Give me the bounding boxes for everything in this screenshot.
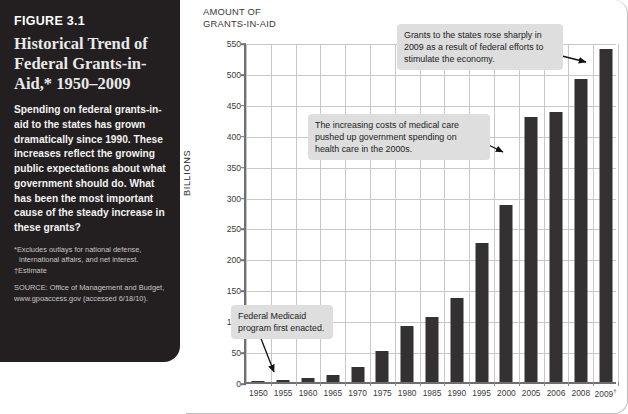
x-axis-tick-mark <box>444 382 445 386</box>
x-axis-tick-mark <box>544 382 545 386</box>
y-axis-tick-label: 450 <box>227 101 241 111</box>
y-axis-tick-label: 400 <box>227 132 241 142</box>
x-axis-tick-mark <box>618 382 619 386</box>
x-axis-tick-label: 2005 <box>522 388 541 398</box>
footnote-dagger: †Estimate <box>14 266 47 275</box>
x-axis-tick-mark <box>345 382 346 386</box>
footnote-asterisk-cont: international affairs, and net interest. <box>14 255 168 266</box>
x-axis-tick-mark <box>296 382 297 386</box>
x-axis-tick-mark <box>420 382 421 386</box>
x-axis-tick-label: 1965 <box>323 388 342 398</box>
bar <box>401 326 414 383</box>
bar <box>302 378 315 382</box>
y-axis-tick-mark <box>241 383 246 385</box>
bar <box>376 351 389 382</box>
y-axis-tick-label: 250 <box>227 224 241 234</box>
bar <box>326 375 339 382</box>
chart-axis-title: AMOUNT OF GRANTS-IN-AID <box>203 6 276 30</box>
x-axis-tick-label: 1955 <box>274 388 293 398</box>
x-axis-tick-mark <box>320 382 321 386</box>
y-axis-tick-label: 150 <box>227 286 241 296</box>
x-axis-tick-label: 1985 <box>423 388 442 398</box>
annotation-callout-medicaid: Federal Medicaid program first enacted. <box>231 305 333 339</box>
bar <box>574 79 587 382</box>
figure-title: Historical Trend of Federal Grants-in-Ai… <box>14 34 168 94</box>
bar <box>351 367 364 382</box>
x-axis-tick-mark <box>395 382 396 386</box>
x-axis-tick-label: 1995 <box>472 388 491 398</box>
x-axis-tick-mark <box>568 382 569 386</box>
bar <box>500 205 513 382</box>
bar <box>450 298 463 382</box>
bar <box>525 117 538 382</box>
figure-footnotes: *Excludes outlays for national defense, … <box>14 245 168 277</box>
caption-panel: FIGURE 3.1 Historical Trend of Federal G… <box>0 0 180 362</box>
x-axis-tick-mark <box>271 382 272 386</box>
bar <box>550 112 563 382</box>
x-axis-tick-mark <box>370 382 371 386</box>
figure-source: SOURCE: Office of Management and Budget,… <box>14 283 168 304</box>
y-axis-tick-label: 350 <box>227 163 241 173</box>
y-axis-label: BILLIONS <box>182 150 192 196</box>
x-axis-tick-label: 2009† <box>595 388 617 399</box>
x-axis-tick-mark <box>494 382 495 386</box>
bar <box>599 49 612 382</box>
x-axis-tick-label: 1950 <box>249 388 268 398</box>
y-axis-tick-label: 200 <box>227 255 241 265</box>
figure-description: Spending on federal grants-in-aid to the… <box>14 103 168 235</box>
bar <box>277 380 290 382</box>
footnote-asterisk: *Excludes outlays for national defense, <box>14 245 141 254</box>
x-axis-tick-label: 2006 <box>547 388 566 398</box>
annotation-callout-2009: Grants to the states rose sharply in 200… <box>397 24 563 70</box>
chart-frame: AMOUNT OF GRANTS-IN-AID BILLIONS 0501001… <box>186 0 628 414</box>
figure-container: FIGURE 3.1 Historical Trend of Federal G… <box>0 0 628 414</box>
bar <box>252 381 265 383</box>
bar <box>426 317 439 382</box>
x-axis-tick-mark <box>519 382 520 386</box>
x-axis-tick-label: 1975 <box>373 388 392 398</box>
y-axis-tick-label: 50 <box>231 348 241 358</box>
bar <box>475 243 488 382</box>
y-axis-tick-label: 500 <box>227 70 241 80</box>
x-axis-tick-label: 2000 <box>497 388 516 398</box>
gridline-vertical <box>618 44 619 382</box>
x-axis-tick-mark <box>593 382 594 386</box>
y-axis-tick-label: 550 <box>227 39 241 49</box>
x-axis-tick-label: 1980 <box>398 388 417 398</box>
x-axis-tick-label: 1990 <box>447 388 466 398</box>
x-axis-tick-label: 1970 <box>348 388 367 398</box>
y-axis-tick-label: 300 <box>227 194 241 204</box>
x-axis-tick-mark <box>469 382 470 386</box>
x-axis-tick-label: 1960 <box>299 388 318 398</box>
figure-label: FIGURE 3.1 <box>14 14 168 28</box>
x-axis-tick-label: 2008 <box>571 388 590 398</box>
annotation-callout-medical-costs: The increasing costs of medical care pus… <box>308 114 490 160</box>
